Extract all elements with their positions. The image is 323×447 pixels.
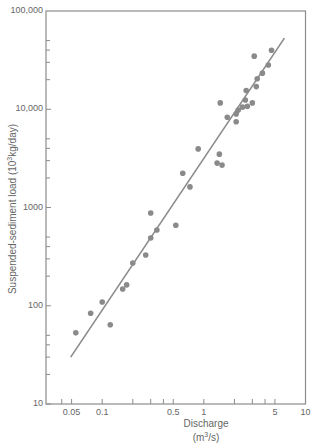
data-point bbox=[195, 146, 201, 152]
x-tick-label: 0.05 bbox=[57, 407, 87, 417]
data-point bbox=[254, 76, 260, 82]
data-point bbox=[219, 162, 225, 168]
data-point bbox=[224, 114, 230, 120]
data-point bbox=[120, 286, 126, 292]
y-axis-label: Suspended-sediment load (103kg/day) bbox=[6, 104, 20, 314]
data-point bbox=[243, 88, 249, 94]
x-axis-units: (m3/s) bbox=[146, 429, 266, 443]
data-point bbox=[124, 282, 130, 288]
data-point bbox=[187, 184, 193, 190]
data-point bbox=[245, 104, 251, 110]
data-point bbox=[148, 235, 154, 241]
x-tick-label: 1 bbox=[189, 407, 219, 417]
y-axis-label-text: Suspended-sediment load (10 bbox=[7, 161, 18, 294]
plot-frame bbox=[46, 11, 306, 404]
data-point bbox=[233, 119, 239, 125]
data-point bbox=[250, 100, 256, 106]
data-point bbox=[173, 222, 179, 228]
data-point bbox=[143, 252, 149, 258]
y-axis-label-units: kg/day) bbox=[7, 124, 18, 157]
data-point bbox=[266, 62, 272, 68]
y-axis-label-sup: 3 bbox=[6, 157, 13, 161]
data-point bbox=[253, 84, 259, 90]
x-tick-label: 5 bbox=[260, 407, 290, 417]
data-point bbox=[240, 104, 246, 110]
data-point bbox=[214, 160, 220, 166]
x-units-suffix: /s) bbox=[208, 432, 219, 443]
data-point bbox=[154, 227, 160, 233]
data-point bbox=[180, 170, 186, 176]
data-point bbox=[260, 70, 266, 76]
data-point bbox=[269, 48, 275, 54]
y-tick-label: 10 bbox=[0, 398, 43, 408]
regression-line bbox=[71, 38, 285, 357]
data-point bbox=[243, 97, 249, 103]
y-tick-label: 100,000 bbox=[0, 5, 43, 15]
scatter-chart bbox=[0, 0, 323, 447]
data-point bbox=[73, 330, 79, 336]
data-point bbox=[99, 299, 105, 305]
data-point bbox=[88, 310, 94, 316]
data-points bbox=[73, 48, 274, 336]
data-point bbox=[217, 100, 223, 106]
x-units-prefix: (m bbox=[193, 432, 205, 443]
x-tick-label: 0.1 bbox=[87, 407, 117, 417]
data-point bbox=[107, 322, 113, 328]
x-tick-label: 0.5 bbox=[158, 407, 188, 417]
data-point bbox=[251, 53, 257, 59]
data-point bbox=[130, 260, 136, 266]
data-point bbox=[148, 210, 154, 216]
x-tick-label: 10 bbox=[291, 407, 321, 417]
x-axis-label: Discharge (m3/s) bbox=[146, 418, 266, 443]
data-point bbox=[217, 151, 223, 157]
x-axis-label-text: Discharge bbox=[146, 418, 266, 429]
